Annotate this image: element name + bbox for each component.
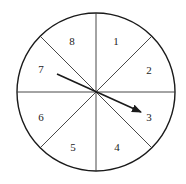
label-8: 8 [69, 35, 75, 47]
label-3: 3 [146, 111, 152, 123]
label-1: 1 [113, 35, 119, 47]
label-5: 5 [70, 141, 76, 153]
label-2: 2 [146, 64, 152, 76]
spinner-diagram: 1 2 3 4 5 6 7 8 [0, 0, 186, 184]
label-4: 4 [114, 141, 120, 153]
label-7: 7 [38, 63, 44, 75]
label-6: 6 [38, 111, 44, 123]
